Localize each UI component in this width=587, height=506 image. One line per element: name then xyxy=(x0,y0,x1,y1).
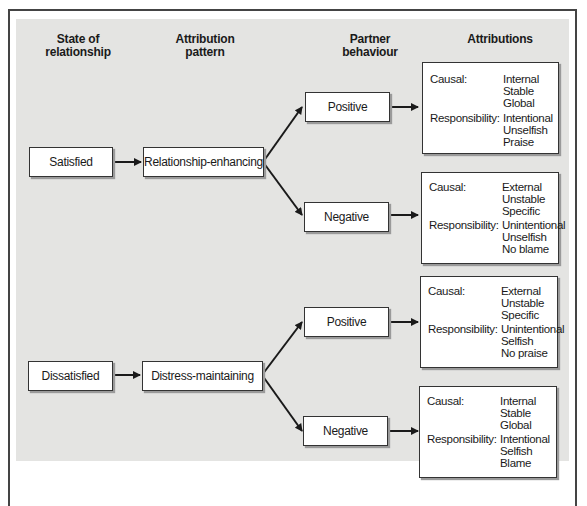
state-box-satisfied: Satisfied xyxy=(29,147,113,177)
responsibility-label: Responsibility: xyxy=(428,323,501,359)
responsibility-label: Responsibility: xyxy=(429,219,502,255)
behaviour-label: Negative xyxy=(324,210,369,224)
responsibility-value: Blame xyxy=(500,457,550,469)
responsibility-values: Intentional Selfish Blame xyxy=(500,433,550,469)
causal-values: External Unstable Specific xyxy=(502,181,545,217)
responsibility-row: Responsibility: Unintentional Selfish No… xyxy=(428,323,564,359)
causal-row: Causal: External Unstable Specific xyxy=(428,285,544,321)
causal-row: Causal: Internal Stable Global xyxy=(430,73,539,109)
responsibility-value: Unintentional xyxy=(501,323,564,335)
causal-value: Stable xyxy=(503,85,539,97)
causal-value: External xyxy=(502,181,545,193)
responsibility-value: Praise xyxy=(503,136,553,148)
responsibility-value: Unselfish xyxy=(502,231,565,243)
responsibility-value: Unselfish xyxy=(503,124,553,136)
responsibility-row: Responsibility: Intentional Unselfish Pr… xyxy=(430,112,553,148)
attribution-box-2: Causal: External Unstable Specific Respo… xyxy=(421,172,559,264)
responsibility-label: Responsibility: xyxy=(430,112,503,148)
causal-value: Specific xyxy=(501,309,544,321)
causal-values: Internal Stable Global xyxy=(500,395,536,431)
causal-value: Unstable xyxy=(501,297,544,309)
responsibility-value: No praise xyxy=(501,347,564,359)
state-label: Satisfied xyxy=(49,155,92,169)
behaviour-label: Positive xyxy=(327,315,367,329)
causal-values: Internal Stable Global xyxy=(503,73,539,109)
causal-value: Internal xyxy=(503,73,539,85)
causal-row: Causal: Internal Stable Global xyxy=(427,395,536,431)
causal-label: Causal: xyxy=(429,181,502,217)
pattern-box-relationship-enhancing: Relationship-enhancing xyxy=(143,147,264,177)
attribution-box-3: Causal: External Unstable Specific Respo… xyxy=(420,276,558,368)
causal-label: Causal: xyxy=(430,73,503,109)
attribution-box-4: Causal: Internal Stable Global Responsib… xyxy=(419,386,557,478)
responsibility-label: Responsibility: xyxy=(427,433,500,469)
causal-value: External xyxy=(501,285,544,297)
behaviour-box-negative-1: Negative xyxy=(304,202,389,232)
responsibility-value: Intentional xyxy=(500,433,550,445)
causal-value: Global xyxy=(500,419,536,431)
pattern-label: Relationship-enhancing xyxy=(144,155,263,169)
responsibility-value: Selfish xyxy=(501,335,564,347)
responsibility-row: Responsibility: Unintentional Unselfish … xyxy=(429,219,565,255)
responsibility-value: Intentional xyxy=(503,112,553,124)
causal-row: Causal: External Unstable Specific xyxy=(429,181,545,217)
responsibility-value: Unintentional xyxy=(502,219,565,231)
responsibility-value: Selfish xyxy=(500,445,550,457)
behaviour-box-positive-2: Positive xyxy=(304,307,389,337)
causal-value: Specific xyxy=(502,205,545,217)
pattern-label: Distress-maintaining xyxy=(151,369,254,383)
causal-label: Causal: xyxy=(428,285,501,321)
causal-value: Internal xyxy=(500,395,536,407)
causal-values: External Unstable Specific xyxy=(501,285,544,321)
behaviour-box-positive-1: Positive xyxy=(305,92,390,122)
behaviour-box-negative-2: Negative xyxy=(303,416,388,446)
behaviour-label: Positive xyxy=(328,100,368,114)
state-box-dissatisfied: Dissatisfied xyxy=(28,361,113,391)
behaviour-label: Negative xyxy=(323,424,368,438)
causal-value: Unstable xyxy=(502,193,545,205)
responsibility-row: Responsibility: Intentional Selfish Blam… xyxy=(427,433,550,469)
responsibility-values: Unintentional Unselfish No blame xyxy=(502,219,565,255)
pattern-box-distress-maintaining: Distress-maintaining xyxy=(142,361,263,391)
causal-value: Stable xyxy=(500,407,536,419)
responsibility-values: Intentional Unselfish Praise xyxy=(503,112,553,148)
attribution-box-1: Causal: Internal Stable Global Responsib… xyxy=(422,62,559,154)
state-label: Dissatisfied xyxy=(42,369,100,383)
causal-value: Global xyxy=(503,97,539,109)
causal-label: Causal: xyxy=(427,395,500,431)
responsibility-value: No blame xyxy=(502,243,565,255)
responsibility-values: Unintentional Selfish No praise xyxy=(501,323,564,359)
